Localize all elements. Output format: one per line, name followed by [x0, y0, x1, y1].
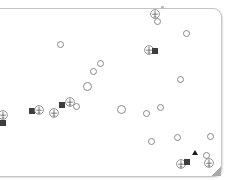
airport-icon[interactable]: [34, 105, 44, 115]
airport-icon[interactable]: [204, 158, 214, 168]
circle-marker-icon[interactable]: [83, 82, 92, 91]
airport-icon[interactable]: [49, 108, 59, 118]
circle-marker-icon[interactable]: [90, 68, 97, 75]
circle-marker-icon[interactable]: [148, 138, 155, 145]
triangle-marker-icon[interactable]: [192, 150, 198, 155]
square-marker-icon[interactable]: [152, 48, 158, 54]
circle-marker-icon[interactable]: [154, 18, 161, 25]
circle-marker-icon[interactable]: [177, 76, 184, 83]
circle-marker-icon[interactable]: [174, 134, 181, 141]
circle-marker-icon[interactable]: [143, 110, 150, 117]
circle-marker-icon[interactable]: [183, 30, 190, 37]
circle-marker-icon[interactable]: [57, 41, 64, 48]
circle-marker-icon[interactable]: [97, 60, 104, 67]
square-marker-icon[interactable]: [0, 120, 6, 126]
circle-marker-icon[interactable]: [117, 105, 126, 114]
circle-marker-icon[interactable]: [207, 133, 214, 140]
square-marker-icon[interactable]: [184, 159, 190, 165]
circle-marker-icon[interactable]: [73, 103, 80, 110]
top-edge-tick: [161, 6, 164, 9]
circle-marker-icon[interactable]: [157, 104, 164, 111]
airport-icon[interactable]: [0, 110, 8, 120]
